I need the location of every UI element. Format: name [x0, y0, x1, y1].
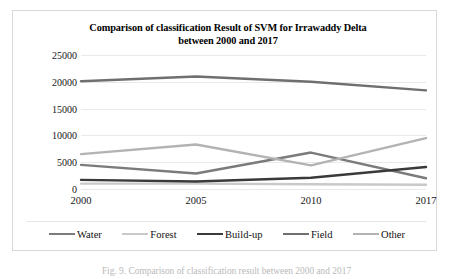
- figure-container: Comparison of classification Result of S…: [12, 10, 437, 251]
- x-tick-label: 2017: [391, 195, 453, 206]
- y-tick-label: 15000: [17, 103, 77, 114]
- chart-title: Comparison of classification Result of S…: [43, 21, 413, 47]
- y-tick-label: 10000: [17, 130, 77, 141]
- legend-swatch-other: [353, 233, 379, 236]
- series-line-other: [81, 138, 426, 165]
- legend-item-other[interactable]: Other: [353, 229, 405, 240]
- legend-swatch-forest: [122, 233, 148, 236]
- legend-label-field: Field: [311, 229, 333, 240]
- legend-label-water: Water: [77, 229, 102, 240]
- legend-swatch-water: [49, 233, 75, 236]
- y-tick-label: 5000: [17, 157, 77, 168]
- legend-divider: [27, 221, 426, 222]
- x-tick-label: 2005: [161, 195, 231, 206]
- legend-swatch-build-up: [197, 233, 223, 236]
- y-tick-label: 20000: [17, 76, 77, 87]
- legend-label-other: Other: [381, 229, 405, 240]
- legend-item-forest[interactable]: Forest: [122, 229, 176, 240]
- series-lines: [81, 55, 426, 189]
- y-tick-label: 25000: [17, 50, 77, 61]
- gridline: [81, 189, 426, 190]
- x-axis-tick-labels: 2000200520102017: [81, 195, 426, 213]
- y-tick-label: 0: [17, 184, 77, 195]
- legend-item-build-up[interactable]: Build-up: [197, 229, 262, 240]
- legend-label-build-up: Build-up: [225, 229, 262, 240]
- y-axis-tick-labels: 2500020000150001000050000: [15, 55, 77, 195]
- plot-wrapper: 2500020000150001000050000 20002005201020…: [13, 55, 438, 215]
- series-line-forest: [81, 184, 426, 185]
- legend-label-forest: Forest: [150, 229, 176, 240]
- x-tick-label: 2000: [46, 195, 116, 206]
- figure-caption: Fig. 9. Comparison of classification res…: [12, 266, 441, 278]
- x-tick-label: 2010: [276, 195, 346, 206]
- plot-area: [81, 55, 426, 189]
- chart-title-line-2: between 2000 and 2017: [43, 34, 413, 47]
- series-line-water: [81, 153, 426, 179]
- legend-item-water[interactable]: Water: [49, 229, 102, 240]
- series-line-field: [81, 76, 426, 90]
- chart-legend: WaterForestBuild-upFieldOther: [27, 225, 427, 243]
- legend-item-field[interactable]: Field: [283, 229, 333, 240]
- chart-title-line-1: Comparison of classification Result of S…: [43, 21, 413, 34]
- legend-swatch-field: [283, 233, 309, 236]
